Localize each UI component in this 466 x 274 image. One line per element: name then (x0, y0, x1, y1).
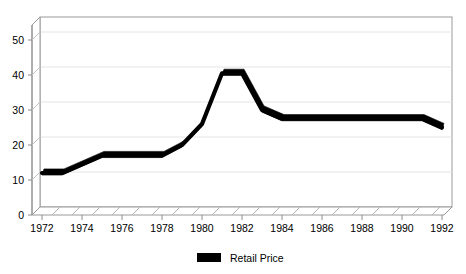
y-tick-label-10: 10 (12, 174, 24, 186)
x-tick-label-1992: 1992 (430, 222, 454, 234)
chart-legend: Retail Price (197, 252, 284, 264)
x-tick-label-1986: 1986 (310, 222, 334, 234)
x-tick-label-1976: 1976 (110, 222, 134, 234)
x-axis-tick-labels: 1972 1974 1976 1978 1980 1982 1984 1986 … (30, 222, 454, 234)
y-tick-label-30: 30 (12, 104, 24, 116)
x-tick-label-1984: 1984 (270, 222, 294, 234)
x-tick-label-1972: 1972 (30, 222, 54, 234)
y-axis-tick-labels: 0 10 20 30 40 50 (12, 34, 24, 221)
x-tick-label-1988: 1988 (350, 222, 374, 234)
left-side-wall (32, 17, 40, 215)
x-tick-label-1978: 1978 (150, 222, 174, 234)
x-tick-label-1974: 1974 (70, 222, 94, 234)
x-tick-label-1990: 1990 (390, 222, 414, 234)
chart-container: 0 10 20 30 40 50 (0, 0, 466, 274)
x-axis-ticks (42, 215, 442, 220)
x-tick-label-1982: 1982 (230, 222, 254, 234)
y-tick-label-20: 20 (12, 139, 24, 151)
y-tick-label-0: 0 (18, 209, 24, 221)
legend-label-retail-price: Retail Price (230, 252, 284, 264)
plot-back-wall (40, 17, 452, 207)
line-chart: 0 10 20 30 40 50 (0, 0, 466, 274)
x-tick-label-1980: 1980 (190, 222, 214, 234)
y-tick-label-50: 50 (12, 34, 24, 46)
y-tick-label-40: 40 (12, 69, 24, 81)
legend-swatch-retail-price (197, 253, 221, 262)
y-axis-ticks (28, 40, 32, 215)
floor-band (32, 207, 452, 215)
